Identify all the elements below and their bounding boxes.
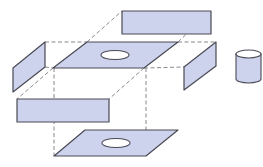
bottom-hole xyxy=(102,139,130,148)
dashed-line xyxy=(144,67,184,68)
cylinder-top xyxy=(236,50,261,58)
left-panel xyxy=(13,42,45,92)
box-panels xyxy=(13,11,216,156)
dashed-line xyxy=(45,67,53,68)
box-net-diagram xyxy=(0,0,263,167)
right-panel xyxy=(184,42,216,90)
front-panel xyxy=(17,99,109,122)
dashed-line xyxy=(87,11,122,42)
cylinder-icon xyxy=(236,50,261,83)
back-panel xyxy=(122,11,211,34)
dashed-line xyxy=(109,68,144,99)
top-hole xyxy=(101,51,129,60)
